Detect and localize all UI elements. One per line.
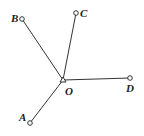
point-C-marker xyxy=(74,11,79,16)
angle-diagram: B C O D A xyxy=(0,0,144,136)
ray-OC xyxy=(63,13,76,80)
point-D-marker xyxy=(128,76,133,81)
point-A-marker xyxy=(28,121,33,126)
ray-OA xyxy=(30,80,63,123)
ray-OD xyxy=(63,78,130,80)
ray-OB xyxy=(22,19,63,80)
label-O: O xyxy=(65,86,73,97)
label-D: D xyxy=(126,83,134,94)
label-A: A xyxy=(19,112,26,123)
point-B-marker xyxy=(20,17,25,22)
label-C: C xyxy=(80,8,87,19)
label-B: B xyxy=(11,13,18,24)
